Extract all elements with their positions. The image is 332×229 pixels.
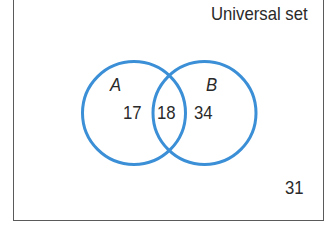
set-b-label: B — [206, 75, 217, 94]
region-outside-count: 31 — [285, 178, 304, 197]
region-a-only-count: 17 — [123, 103, 142, 122]
set-a-label: A — [110, 75, 121, 94]
region-a-and-b-count: 18 — [157, 103, 176, 122]
universal-set-label: Universal set — [211, 4, 308, 23]
region-b-only-count: 34 — [194, 103, 213, 122]
